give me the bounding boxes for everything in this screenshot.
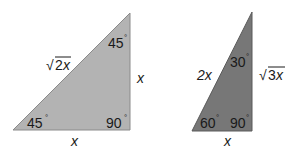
angle-bottom-left-45: 45 <box>27 115 43 131</box>
vertical-label-sqrt3x: √ 3 x <box>259 67 285 83</box>
sqrt-sign: √ <box>259 67 267 83</box>
angle-bottom-left-60: 60 <box>200 115 216 131</box>
sqrt-sign: √ <box>46 57 54 73</box>
degree-mark: ° <box>45 113 48 122</box>
degree-mark: ° <box>124 33 127 42</box>
side-label-vertical: x <box>136 70 145 86</box>
angle-top-45: 45 <box>108 35 124 51</box>
angle-right-90: 90 <box>106 115 122 131</box>
sqrt-radicand: 2 <box>55 57 63 73</box>
special-right-triangles-diagram: 45 ° 45 ° 90 ° √ 2 x x x 30 ° 60 ° 90 ° … <box>0 0 293 156</box>
variable-x: x <box>62 57 71 73</box>
angle-right-90: 90 <box>230 115 246 131</box>
hypotenuse-label-sqrt2x: √ 2 x <box>46 57 71 73</box>
degree-mark: ° <box>124 113 127 122</box>
degree-mark: ° <box>216 113 219 122</box>
side-label-hypotenuse: 2x <box>196 67 213 83</box>
triangle-30-60-90: 30 ° 60 ° 90 ° 2x √ 3 x x <box>192 12 285 149</box>
degree-mark: ° <box>246 113 249 122</box>
triangle-45-shape <box>13 13 130 130</box>
sqrt-radicand: 3 <box>268 67 276 83</box>
degree-mark: ° <box>246 52 249 61</box>
side-label-base: x <box>223 133 232 149</box>
angle-top-30: 30 <box>230 54 246 70</box>
side-label-base: x <box>70 133 79 149</box>
triangle-45-45-90: 45 ° 45 ° 90 ° √ 2 x x x <box>13 13 145 149</box>
variable-x: x <box>275 67 284 83</box>
